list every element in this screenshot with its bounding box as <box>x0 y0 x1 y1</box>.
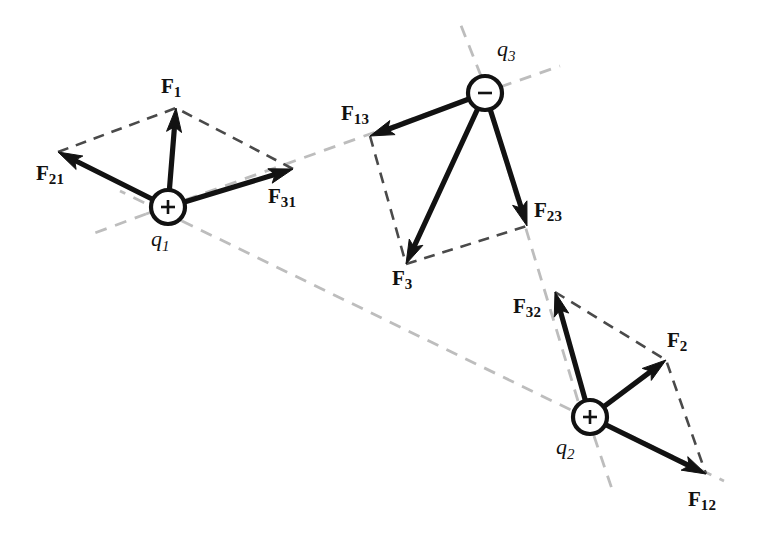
axis-q2-q3-extension-top <box>458 18 481 76</box>
charge-label-q1: q1 <box>151 228 170 254</box>
force-label-F12: F12 <box>688 489 716 513</box>
force-label-F12-subscript: 12 <box>701 497 716 513</box>
force-label-F13-base: F <box>341 101 354 125</box>
axis-q1-q3-extension-left <box>92 214 146 234</box>
force-label-F1-base: F <box>161 74 174 98</box>
force-label-F21-base: F <box>36 161 49 185</box>
force-label-F21-subscript: 21 <box>49 171 64 187</box>
force-label-F13-subscript: 13 <box>354 111 369 127</box>
force-label-F1-subscript: 1 <box>174 84 182 100</box>
force-label-F23-subscript: 23 <box>547 208 562 224</box>
force-label-F32: F32 <box>513 296 541 320</box>
charge-label-q3-subscript: 3 <box>508 48 516 64</box>
charge-symbol-q1 <box>151 190 185 224</box>
force-label-F32-base: F <box>513 294 526 318</box>
charge-symbol-q3 <box>468 76 502 110</box>
charge-label-q2-subscript: 2 <box>567 446 575 462</box>
force-label-F31-base: F <box>268 184 281 208</box>
force-label-F2-subscript: 2 <box>680 338 688 354</box>
charge-label-q2-base: q <box>556 434 567 459</box>
charge-label-q2: q2 <box>556 436 575 462</box>
force-label-F3: F3 <box>392 268 413 292</box>
axis-q2-q3-extension-bottom <box>594 436 614 495</box>
force-label-F21: F21 <box>36 163 64 187</box>
force-label-F23: F23 <box>534 200 562 224</box>
force-label-F3-subscript: 3 <box>405 276 413 292</box>
charge-symbol-q2 <box>573 400 607 434</box>
force-diagram: F21F31F1F13F23F3F32F12F2q1q2q3 <box>0 0 768 544</box>
force-label-F31-subscript: 31 <box>281 194 296 210</box>
force-vector-F23 <box>485 93 527 226</box>
axis-q1-q3-extension-right <box>500 66 560 87</box>
force-label-F1: F1 <box>161 76 182 100</box>
charge-label-q1-subscript: 1 <box>162 238 170 254</box>
force-label-F2: F2 <box>667 330 688 354</box>
force-label-F3-base: F <box>392 266 405 290</box>
force-label-F31: F31 <box>268 186 296 210</box>
charge-label-q3: q3 <box>497 38 516 64</box>
force-label-F13: F13 <box>341 103 369 127</box>
figure-canvas <box>0 0 768 544</box>
charge-label-q3-base: q <box>497 36 508 61</box>
charge-label-q1-base: q <box>151 226 162 251</box>
force-label-F2-base: F <box>667 328 680 352</box>
force-label-F12-base: F <box>688 487 701 511</box>
force-label-F23-base: F <box>534 198 547 222</box>
force-vector-F32 <box>554 292 590 417</box>
force-label-F32-subscript: 32 <box>526 304 541 320</box>
parallelogram-q2 <box>555 292 706 474</box>
